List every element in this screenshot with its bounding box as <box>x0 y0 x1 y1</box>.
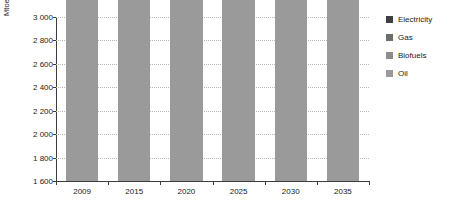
gridline <box>56 134 369 135</box>
bar-segment-oil[interactable] <box>118 0 150 181</box>
bar-group[interactable] <box>66 0 98 181</box>
bar-group[interactable] <box>170 0 202 181</box>
legend-label: Gas <box>398 33 413 42</box>
gridline <box>56 87 369 88</box>
x-tick-mark <box>56 181 57 185</box>
bar-segment-oil[interactable] <box>66 0 98 181</box>
gridline <box>56 111 369 112</box>
legend-swatch-icon <box>386 70 393 77</box>
y-tick-mark <box>53 64 56 65</box>
gridline <box>56 64 369 65</box>
y-axis-title: Mtoe <box>2 0 11 16</box>
y-axis-tick-label: 3 000 <box>33 13 53 22</box>
x-axis-tick-label: 2025 <box>230 187 248 196</box>
x-tick-mark <box>213 181 214 185</box>
x-axis-tick-label: 2009 <box>73 187 91 196</box>
legend-label: Oil <box>398 69 408 78</box>
y-axis-tick-label: 2 200 <box>33 106 53 115</box>
y-tick-mark <box>53 134 56 135</box>
legend-item[interactable]: Gas <box>386 28 474 46</box>
legend-swatch-icon <box>386 52 393 59</box>
bar-segment-oil[interactable] <box>222 0 254 181</box>
x-axis-tick-label: 2020 <box>178 187 196 196</box>
gridline <box>56 40 369 41</box>
legend-label: Biofuels <box>398 51 426 60</box>
chart-legend: ElectricityGasBiofuelsOil <box>386 10 474 82</box>
y-tick-mark <box>53 40 56 41</box>
legend-swatch-icon <box>386 16 393 23</box>
y-axis-tick-label: 1 800 <box>33 153 53 162</box>
y-axis-line <box>56 17 57 181</box>
x-tick-mark <box>265 181 266 185</box>
legend-item[interactable]: Oil <box>386 64 474 82</box>
legend-item[interactable]: Biofuels <box>386 46 474 64</box>
x-tick-mark <box>160 181 161 185</box>
x-axis-tick-label: 2015 <box>125 187 143 196</box>
x-tick-mark <box>317 181 318 185</box>
stacked-bar-chart: Mtoe 3 0002 8002 6002 4002 2002 0001 800… <box>0 0 475 209</box>
bar-group[interactable] <box>275 0 307 181</box>
y-tick-mark <box>53 111 56 112</box>
plot-area: 3 0002 8002 6002 4002 2002 0001 8001 600… <box>56 17 369 181</box>
y-tick-mark <box>53 87 56 88</box>
bar-segment-oil[interactable] <box>275 0 307 181</box>
bar-group[interactable] <box>118 0 150 181</box>
bar-segment-oil[interactable] <box>327 0 359 181</box>
legend-label: Electricity <box>398 15 432 24</box>
x-tick-mark <box>108 181 109 185</box>
y-axis-tick-label: 2 000 <box>33 130 53 139</box>
y-axis-tick-label: 2 400 <box>33 83 53 92</box>
gridline <box>56 158 369 159</box>
legend-item[interactable]: Electricity <box>386 10 474 28</box>
y-tick-mark <box>53 17 56 18</box>
x-tick-mark <box>369 181 370 185</box>
bar-segment-oil[interactable] <box>170 0 202 181</box>
gridline <box>56 17 369 18</box>
legend-swatch-icon <box>386 34 393 41</box>
y-axis-tick-label: 2 800 <box>33 36 53 45</box>
y-tick-mark <box>53 158 56 159</box>
x-axis-tick-label: 2035 <box>334 187 352 196</box>
y-axis-tick-label: 1 600 <box>33 177 53 186</box>
x-axis-tick-label: 2030 <box>282 187 300 196</box>
y-axis-tick-label: 2 600 <box>33 59 53 68</box>
bar-group[interactable] <box>327 0 359 181</box>
bar-group[interactable] <box>222 0 254 181</box>
